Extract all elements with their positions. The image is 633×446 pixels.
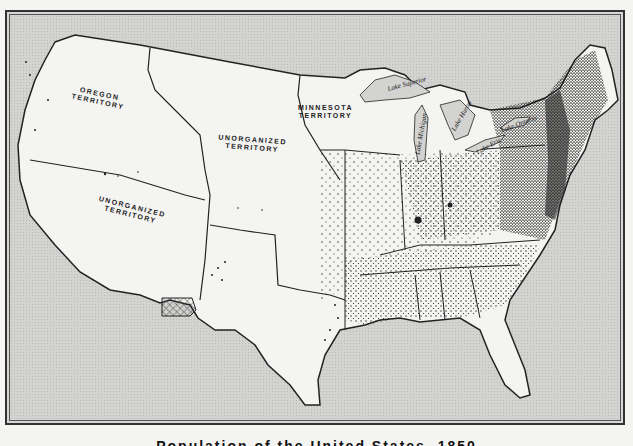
label-minnesota-territory: MINNESOTA TERRITORY (298, 104, 353, 120)
map-caption: Population of the United States, 1850 (0, 437, 633, 446)
south-dots (345, 245, 540, 325)
hatched-area (162, 298, 196, 316)
us-map (0, 0, 633, 446)
